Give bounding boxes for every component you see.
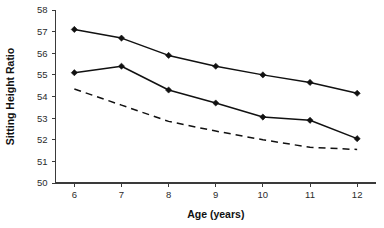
series-line — [74, 89, 357, 150]
data-point-marker — [307, 79, 313, 85]
data-point-marker — [213, 63, 219, 69]
data-point-marker — [213, 100, 219, 106]
y-axis-tick-marks — [52, 10, 56, 183]
series-line — [74, 29, 357, 93]
x-tick-label: 8 — [166, 189, 171, 200]
series-layer — [71, 26, 360, 149]
x-tick-label: 9 — [213, 189, 218, 200]
y-tick-label: 51 — [37, 156, 48, 167]
y-tick-label: 57 — [37, 26, 48, 37]
y-axis-tick-labels: 505152535455565758 — [37, 4, 48, 188]
y-tick-label: 55 — [37, 69, 48, 80]
data-point-marker — [307, 117, 313, 123]
y-tick-label: 58 — [37, 4, 48, 15]
data-point-marker — [118, 35, 124, 41]
data-point-marker — [260, 72, 266, 78]
data-point-marker — [166, 87, 172, 93]
y-tick-label: 50 — [37, 177, 48, 188]
y-tick-label: 54 — [37, 91, 48, 102]
x-tick-label: 12 — [352, 189, 363, 200]
data-point-marker — [260, 114, 266, 120]
data-point-marker — [354, 90, 360, 96]
data-point-marker — [71, 26, 77, 32]
line-chart: 505152535455565758 6789101112 Sitting He… — [0, 0, 384, 228]
series-upper-solid-series — [71, 26, 360, 96]
x-tick-label: 10 — [258, 189, 269, 200]
data-point-marker — [71, 70, 77, 76]
x-tick-label: 6 — [72, 189, 77, 200]
x-tick-label: 11 — [305, 189, 315, 200]
x-axis-tick-labels: 6789101112 — [72, 189, 363, 200]
chart-container: 505152535455565758 6789101112 Sitting He… — [0, 0, 384, 228]
x-axis-tick-marks — [74, 183, 357, 187]
data-point-marker — [354, 136, 360, 142]
data-point-marker — [166, 52, 172, 58]
y-tick-label: 56 — [37, 48, 48, 59]
y-tick-label: 52 — [37, 134, 48, 145]
y-tick-label: 53 — [37, 113, 48, 124]
x-axis-title: Age (years) — [187, 208, 244, 220]
data-point-marker — [118, 63, 124, 69]
series-dashed-series — [74, 89, 357, 150]
y-axis-title: Sitting Height Ratio — [4, 48, 16, 145]
x-tick-label: 7 — [119, 189, 124, 200]
